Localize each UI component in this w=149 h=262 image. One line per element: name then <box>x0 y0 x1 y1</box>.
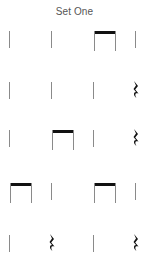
rhythm-row-1 <box>0 28 149 50</box>
eighth-note-pair-icon <box>52 130 74 150</box>
quarter-rest-icon <box>132 234 140 252</box>
eighth-note-pair-icon <box>10 183 32 203</box>
quarter-rest-icon <box>48 234 56 252</box>
rhythm-row-5 <box>0 232 149 254</box>
rhythm-row-2 <box>0 79 149 101</box>
rhythm-row-4 <box>0 180 149 202</box>
eighth-note-pair-icon <box>94 31 116 51</box>
rhythm-row-3 <box>0 127 149 149</box>
set-title: Set One <box>0 6 149 17</box>
quarter-rest-icon <box>132 129 140 147</box>
quarter-rest-icon <box>132 81 140 99</box>
eighth-note-pair-icon <box>94 183 116 203</box>
